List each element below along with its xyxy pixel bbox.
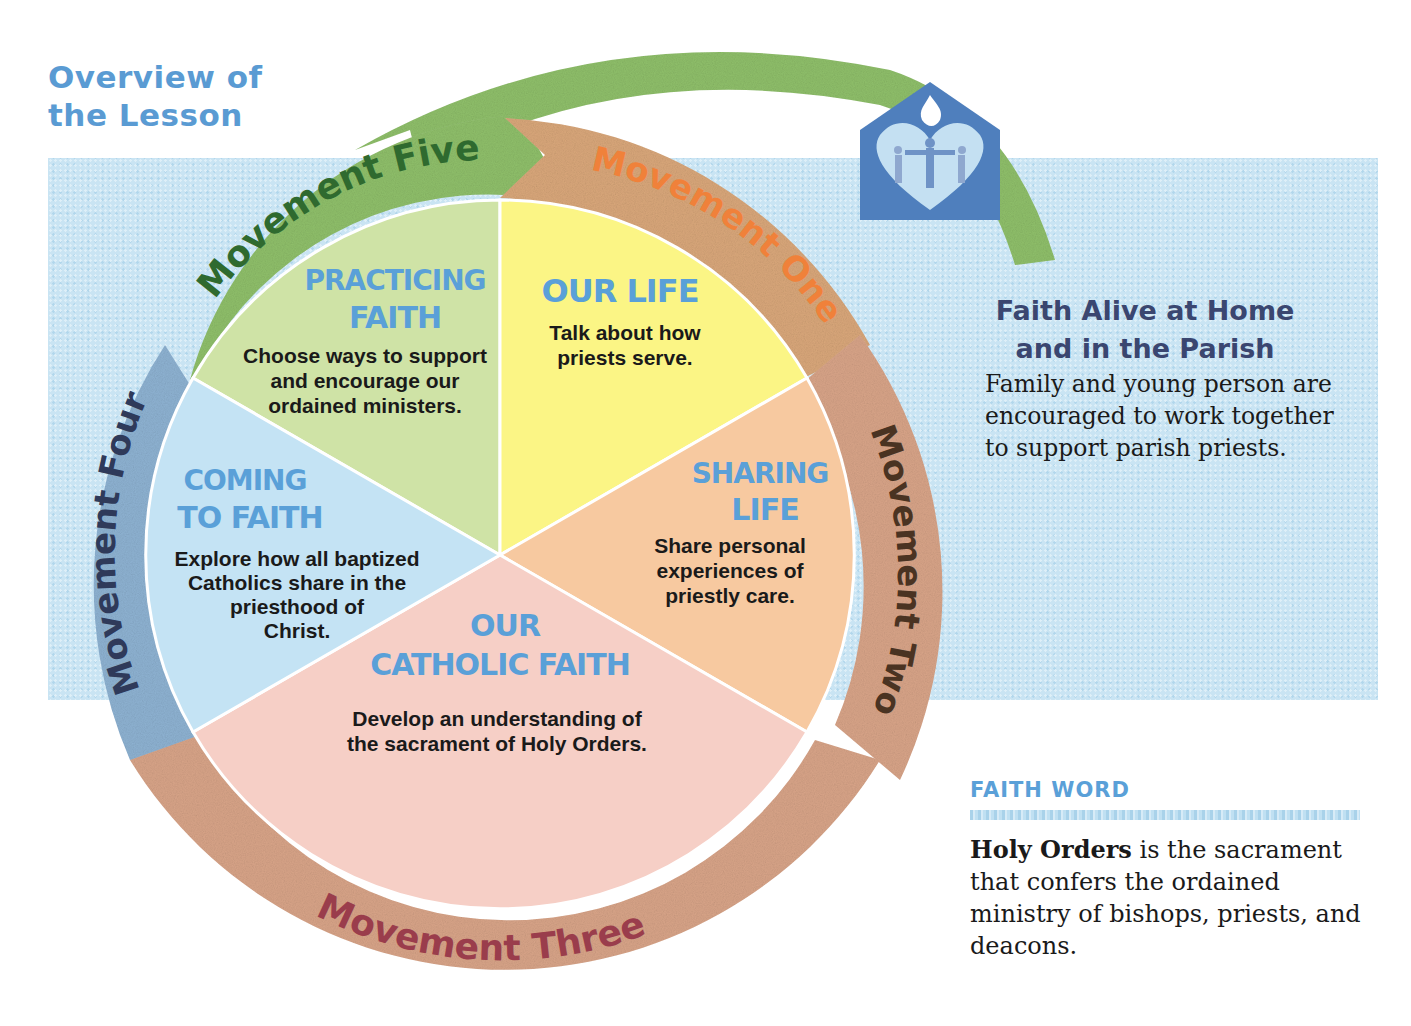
- svg-text:priestly care.: priestly care.: [665, 584, 795, 607]
- faith-word-definition: Holy Orders is the sacrament that confer…: [970, 834, 1370, 962]
- wedge-title: COMING: [183, 464, 306, 497]
- wedge-title: FAITH: [349, 300, 441, 335]
- faith-alive-heading: Faith Alive at Home and in the Parish: [985, 292, 1305, 368]
- wedge-title: CATHOLIC FAITH: [370, 647, 630, 682]
- wedge-title: OUR LIFE: [542, 272, 699, 310]
- faith-word-label: FAITH WORD: [970, 778, 1370, 802]
- faith-alive-body: Family and young person are encouraged t…: [985, 368, 1345, 464]
- svg-text:Choose ways to support: Choose ways to support: [243, 344, 487, 367]
- svg-text:Christ.: Christ.: [264, 619, 331, 642]
- svg-text:Share personal: Share personal: [654, 534, 806, 557]
- faith-alive-panel: Faith Alive at Home and in the Parish Fa…: [985, 292, 1345, 464]
- wedge-title: PRACTICING: [304, 264, 485, 297]
- wedge-title: LIFE: [731, 492, 798, 527]
- svg-text:Catholics share in the: Catholics share in the: [188, 571, 406, 594]
- faith-word-term: Holy Orders: [970, 835, 1132, 864]
- svg-text:Talk about how: Talk about how: [549, 321, 701, 344]
- svg-text:Develop an understanding of: Develop an understanding of: [352, 707, 642, 730]
- svg-text:and encourage our: and encourage our: [270, 369, 459, 392]
- svg-text:Explore how all baptized: Explore how all baptized: [174, 547, 419, 570]
- faith-word-panel: FAITH WORD Holy Orders is the sacrament …: [970, 778, 1370, 962]
- wedge-content-our-life: OUR LIFE Talk about how priests serve.: [542, 272, 702, 369]
- wedge-title: TO FAITH: [177, 500, 322, 535]
- svg-text:ordained ministers.: ordained ministers.: [268, 394, 462, 417]
- wedge-title: OUR: [470, 608, 541, 643]
- wedge-title: SHARING: [692, 457, 829, 490]
- svg-text:experiences of: experiences of: [656, 559, 804, 582]
- svg-text:priesthood of: priesthood of: [230, 595, 365, 618]
- faith-word-divider: [970, 810, 1360, 820]
- svg-text:priests serve.: priests serve.: [557, 346, 692, 369]
- svg-text:the sacrament of Holy Orders.: the sacrament of Holy Orders.: [347, 732, 647, 755]
